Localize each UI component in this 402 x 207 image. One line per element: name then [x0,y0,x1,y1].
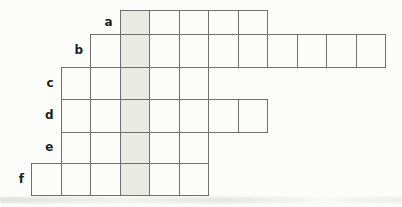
puzzle-cell[interactable] [179,67,210,101]
puzzle-cell[interactable] [61,99,92,133]
puzzle-cell[interactable] [238,99,269,133]
puzzle-cell[interactable] [90,99,121,133]
puzzle-cell[interactable] [208,99,239,133]
puzzle-cell[interactable] [90,34,121,68]
puzzle-cell-shaded[interactable] [120,10,151,35]
puzzle-cell-shaded[interactable] [120,132,151,165]
row-label-a: a [93,15,113,29]
puzzle-cell[interactable] [238,34,269,68]
puzzle-cell[interactable] [208,10,239,35]
puzzle-cell[interactable] [90,67,121,101]
puzzle-cell-shaded[interactable] [120,99,151,133]
puzzle-cell[interactable] [238,10,269,35]
puzzle-cell[interactable] [61,163,92,196]
puzzle-cell[interactable] [90,163,121,196]
row-label-c: c [34,76,54,90]
puzzle-cell[interactable] [149,132,180,165]
puzzle-cell[interactable] [179,10,210,35]
puzzle-cell[interactable] [149,10,180,35]
row-label-d: d [34,108,54,122]
puzzle-cell[interactable] [297,34,328,68]
puzzle-cell[interactable] [61,67,92,101]
puzzle-grid: abcdef [0,0,402,207]
puzzle-cell[interactable] [179,163,210,196]
scan-smudge-artifact [0,197,402,203]
puzzle-cell[interactable] [149,34,180,68]
row-label-f: f [4,172,24,186]
puzzle-cell-shaded[interactable] [120,34,151,68]
row-label-b: b [63,43,83,57]
puzzle-cell[interactable] [179,99,210,133]
puzzle-cell[interactable] [208,34,239,68]
puzzle-cell[interactable] [149,163,180,196]
puzzle-cell[interactable] [356,34,387,68]
puzzle-cell[interactable] [149,67,180,101]
puzzle-cell[interactable] [31,163,62,196]
puzzle-cell[interactable] [61,132,92,165]
puzzle-cell[interactable] [179,132,210,165]
puzzle-cell[interactable] [149,99,180,133]
row-label-e: e [34,140,54,154]
puzzle-cell[interactable] [326,34,357,68]
puzzle-cell-shaded[interactable] [120,163,151,196]
puzzle-cell[interactable] [179,34,210,68]
puzzle-cell[interactable] [90,132,121,165]
puzzle-cell-shaded[interactable] [120,67,151,101]
puzzle-cell[interactable] [267,34,298,68]
